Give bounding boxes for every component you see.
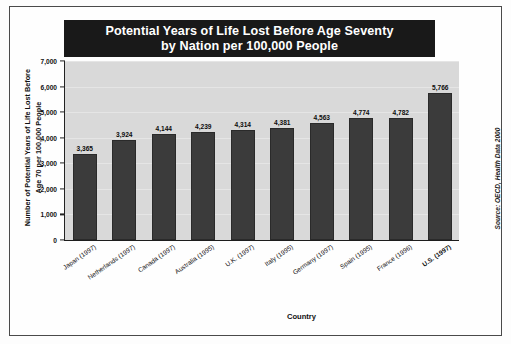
- plot-area: 01,0002,0003,0004,0005,0006,0007,0003,36…: [64, 61, 459, 240]
- bar: [191, 132, 215, 240]
- y-axis-tick-mark: [60, 137, 65, 138]
- y-axis-tick-mark: [60, 163, 65, 164]
- plot-inner: 01,0002,0003,0004,0005,0006,0007,0003,36…: [65, 61, 459, 240]
- bar-value-label: 4,381: [274, 119, 291, 126]
- chart-title-line-2: by Nation per 100,000 People: [161, 39, 338, 53]
- bar-group: 4,144: [152, 61, 176, 240]
- y-axis-tick-mark: [60, 86, 65, 87]
- bar-group: 4,381: [270, 61, 294, 240]
- bar-value-label: 3,365: [76, 145, 93, 152]
- bar-value-label: 4,144: [155, 125, 172, 132]
- x-axis-line: [64, 240, 459, 241]
- bar: [231, 130, 255, 240]
- bar-group: 4,239: [191, 61, 215, 240]
- bar: [152, 134, 176, 240]
- chart-title-banner: Potential Years of Life Lost Before Age …: [64, 20, 435, 57]
- bar-value-label: 5,766: [432, 84, 449, 91]
- bar: [270, 128, 294, 240]
- bar-group: 4,774: [349, 61, 373, 240]
- y-axis-tick-mark: [60, 188, 65, 189]
- bar-value-label: 4,563: [313, 114, 330, 121]
- bar: [349, 118, 373, 240]
- source-note: Source: OECD, Health Data 2000: [494, 99, 501, 259]
- bar-value-label: 4,314: [234, 121, 251, 128]
- bar-group: 3,365: [73, 61, 97, 240]
- bar-value-label: 4,239: [195, 123, 212, 130]
- chart-title-line-1: Potential Years of Life Lost Before Age …: [105, 24, 393, 38]
- bar-value-label: 4,782: [392, 109, 409, 116]
- bar-group: 4,782: [389, 61, 413, 240]
- bar: [112, 140, 136, 240]
- y-axis-tick-mark: [60, 112, 65, 113]
- bar: [73, 154, 97, 240]
- x-axis-title: Country: [0, 312, 511, 321]
- bar: [310, 123, 334, 240]
- bar-group: 4,563: [310, 61, 334, 240]
- y-axis-tick-mark: [60, 60, 65, 61]
- bar-group: 3,924: [112, 61, 136, 240]
- bar-group: 4,314: [231, 61, 255, 240]
- y-axis-tick-mark: [60, 214, 65, 215]
- chart-page: Potential Years of Life Lost Before Age …: [0, 0, 511, 344]
- x-axis-title-text: Country: [287, 312, 316, 321]
- bar: [389, 118, 413, 240]
- bar-group: 5,766: [428, 61, 452, 240]
- bar-value-label: 3,924: [116, 131, 133, 138]
- y-axis-title-line-1: Number of Potential Years of Life Lost B…: [23, 53, 34, 243]
- bar-value-label: 4,774: [353, 109, 370, 116]
- bar: [428, 93, 452, 240]
